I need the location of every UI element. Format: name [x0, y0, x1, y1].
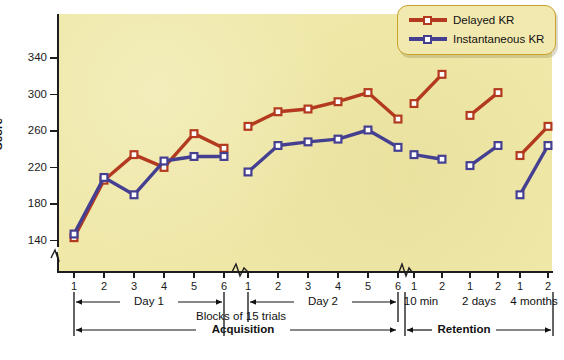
y-axis-line — [57, 14, 59, 247]
x-tick-label: 4 — [326, 280, 350, 292]
group-label-day1: Day 1 — [120, 295, 178, 307]
x-tick-label: 2 — [486, 280, 510, 292]
x-tick — [497, 272, 498, 278]
group-label-day2: Day 2 — [294, 295, 352, 307]
x-tick — [163, 272, 164, 278]
x-tick — [133, 272, 134, 278]
x-axis-caption: Blocks of 15 trials — [196, 310, 286, 322]
x-tick — [307, 272, 308, 278]
x-tick-label: 5 — [356, 280, 380, 292]
x-tick — [441, 272, 442, 278]
y-tick-label: 180 — [0, 197, 47, 209]
x-tick-label: 3 — [122, 280, 146, 292]
x-tick — [469, 272, 470, 278]
group-label-4months: 4 months — [505, 295, 563, 307]
x-tick — [223, 272, 224, 278]
x-tick — [413, 272, 414, 278]
x-tick-label: 2 — [536, 280, 560, 292]
x-tick-label: 1 — [508, 280, 532, 292]
x-tick-label: 2 — [266, 280, 290, 292]
x-tick-label: 4 — [152, 280, 176, 292]
y-tick-label: 340 — [0, 51, 47, 63]
x-tick — [397, 272, 398, 278]
x-tick-label: 3 — [296, 280, 320, 292]
x-tick — [277, 272, 278, 278]
y-tick-label: 300 — [0, 88, 47, 100]
x-axis-line — [57, 271, 553, 273]
x-tick-label: 1 — [458, 280, 482, 292]
chart-figure: Score 340 300 260 220 180 140 1234561234… — [0, 0, 564, 360]
x-tick-label: 5 — [182, 280, 206, 292]
y-axis-line-lower — [57, 258, 59, 272]
legend-label-instantaneous: Instantaneous KR — [453, 33, 544, 45]
legend-item-delayed[interactable]: Delayed KR — [409, 13, 514, 27]
phase-label-retention: Retention — [432, 323, 496, 335]
x-tick — [193, 272, 194, 278]
legend-label-delayed: Delayed KR — [453, 14, 514, 26]
group-label-10min: 10 min — [400, 295, 442, 307]
x-tick — [73, 272, 74, 278]
x-tick — [103, 272, 104, 278]
x-tick-label: 2 — [430, 280, 454, 292]
x-tick-label: 2 — [92, 280, 116, 292]
x-tick — [337, 272, 338, 278]
x-tick — [547, 272, 548, 278]
group-label-2days: 2 days — [458, 295, 500, 307]
legend-item-instantaneous[interactable]: Instantaneous KR — [409, 32, 544, 46]
y-tick-label: 260 — [0, 124, 47, 136]
x-tick — [519, 272, 520, 278]
legend-swatch-instantaneous — [409, 34, 447, 45]
x-tick-label: 1 — [236, 280, 260, 292]
x-tick-label: 1 — [402, 280, 426, 292]
x-tick — [247, 272, 248, 278]
phase-label-acquisition: Acquisition — [196, 323, 290, 335]
legend[interactable]: Delayed KR Instantaneous KR — [397, 5, 556, 55]
x-tick-label: 6 — [212, 280, 236, 292]
x-tick — [367, 272, 368, 278]
x-tick-label: 1 — [62, 280, 86, 292]
y-tick-label: 140 — [0, 234, 47, 246]
legend-swatch-delayed — [409, 15, 447, 26]
y-tick-label: 220 — [0, 161, 47, 173]
